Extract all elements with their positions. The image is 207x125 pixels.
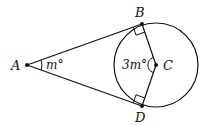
geometry-diagram: A B C D m° 3m° (0, 0, 207, 125)
point-c (154, 63, 158, 67)
angle-label-c: 3m° (122, 58, 147, 72)
point-d (140, 104, 144, 108)
label-a: A (10, 58, 20, 73)
label-c: C (163, 58, 173, 73)
point-b (140, 22, 144, 26)
angle-arc-a (41, 60, 42, 70)
label-b: B (134, 5, 145, 20)
angle-arc-c (148, 57, 154, 72)
angle-label-a: m° (46, 58, 63, 72)
label-d: D (134, 110, 146, 125)
point-a (25, 63, 29, 67)
